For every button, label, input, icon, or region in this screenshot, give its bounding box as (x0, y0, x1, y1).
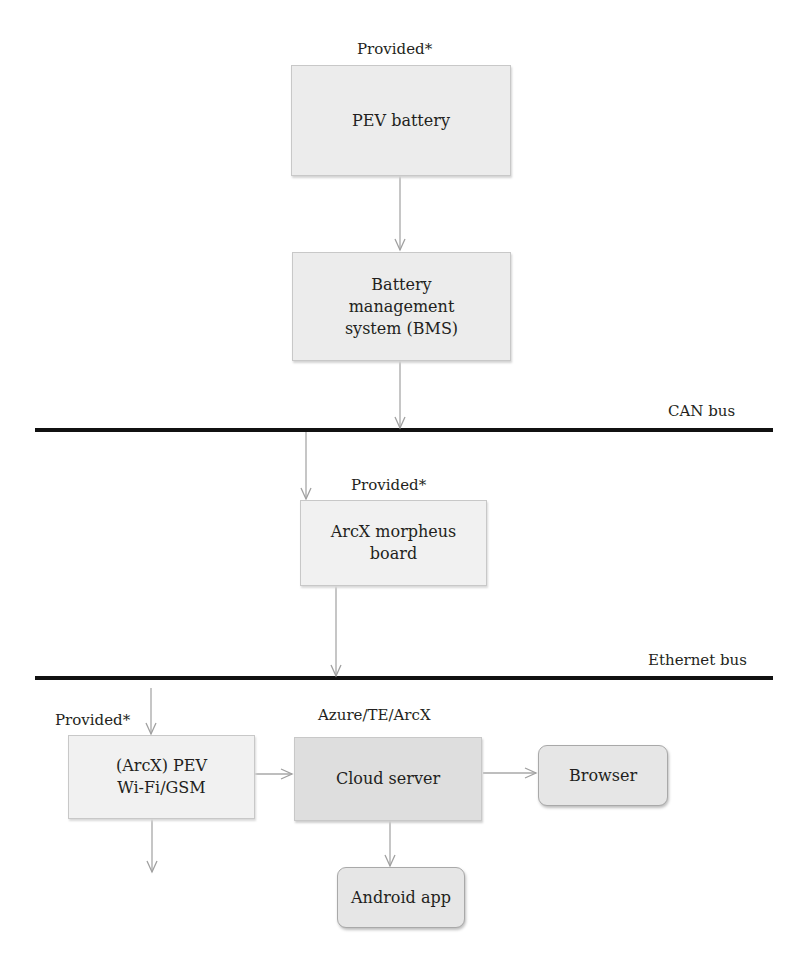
pev-battery-annotation: Provided* (357, 40, 432, 58)
morpheus-label-line1: ArcX morpheus (331, 521, 457, 543)
bms-label-line2: management (349, 296, 455, 318)
pev-battery-node: PEV battery (291, 65, 511, 176)
android-app-node: Android app (337, 867, 465, 928)
bms-label-line3: system (BMS) (345, 318, 458, 340)
wifi-gsm-label-line1: (ArcX) PEV (116, 755, 207, 777)
bms-node: Battery management system (BMS) (292, 252, 511, 361)
wifi-gsm-label-line2: Wi-Fi/GSM (117, 777, 205, 799)
ethernet-bus-label: Ethernet bus (648, 651, 747, 669)
android-app-label: Android app (351, 887, 451, 909)
wifi-gsm-annotation: Provided* (55, 711, 130, 729)
morpheus-annotation: Provided* (351, 476, 426, 494)
morpheus-board-node: ArcX morpheus board (300, 500, 487, 586)
wifi-gsm-node: (ArcX) PEV Wi-Fi/GSM (68, 735, 255, 819)
bms-label-line1: Battery (371, 274, 431, 296)
browser-label: Browser (569, 765, 637, 787)
browser-node: Browser (538, 745, 668, 806)
cloud-server-label: Cloud server (336, 768, 440, 790)
cloud-server-node: Cloud server (294, 737, 482, 821)
system-diagram: Provided* PEV battery Battery management… (0, 0, 809, 977)
morpheus-label-line2: board (370, 543, 417, 565)
cloud-annotation: Azure/TE/ArcX (318, 706, 431, 724)
pev-battery-label: PEV battery (352, 110, 450, 132)
can-bus-label: CAN bus (668, 402, 735, 420)
